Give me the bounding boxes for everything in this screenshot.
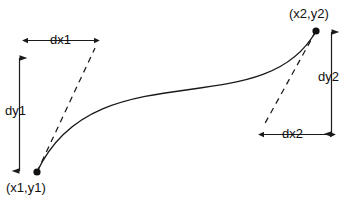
- tangent-handle-start: [37, 48, 95, 172]
- point1-label: (x1,y1): [6, 181, 46, 194]
- bezier-diagram: dx1 dy1 dx2 dy2 (x1,y1) (x2,y2): [0, 0, 352, 204]
- point-marker-start: [33, 168, 40, 175]
- dy2-label: dy2: [318, 70, 339, 83]
- dx2-label: dx2: [282, 127, 303, 140]
- dy1-label: dy1: [5, 104, 26, 117]
- dx1-label: dx1: [50, 33, 71, 46]
- point2-label: (x2,y2): [289, 7, 329, 20]
- tangent-handle-end: [263, 31, 316, 127]
- point-marker-end: [312, 27, 319, 34]
- bezier-curve: [37, 31, 316, 172]
- diagram-canvas: [0, 0, 352, 204]
